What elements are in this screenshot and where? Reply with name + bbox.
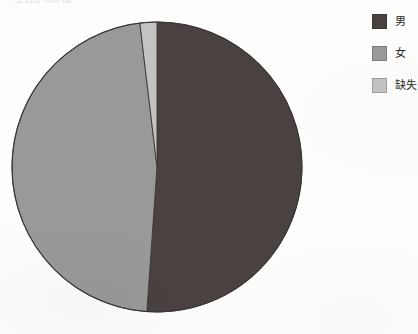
pie-chart-plot-area <box>0 0 340 334</box>
chart-page: 性别分布饼图 男女缺失 <box>0 0 418 334</box>
legend-item[interactable]: 男 <box>372 14 418 28</box>
legend-item-label: 男 <box>395 15 406 28</box>
legend-color-swatch <box>372 14 387 29</box>
legend-item[interactable]: 女 <box>372 46 418 60</box>
chart-legend: 男女缺失 <box>372 14 418 110</box>
pie-slice[interactable] <box>147 22 302 312</box>
pie-slice[interactable] <box>12 23 157 312</box>
legend-item[interactable]: 缺失 <box>372 78 418 92</box>
legend-color-swatch <box>372 46 387 61</box>
legend-item-label: 女 <box>395 47 406 60</box>
legend-color-swatch <box>372 78 387 93</box>
legend-item-label: 缺失 <box>395 79 417 92</box>
pie-chart-svg <box>0 0 340 334</box>
